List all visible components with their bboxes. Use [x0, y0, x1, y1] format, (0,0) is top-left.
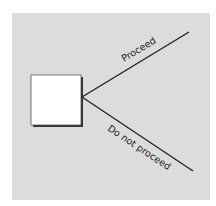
- branch-label-proceed: Proceed: [119, 35, 157, 64]
- decision-tree-diagram: Proceed Do not proceed: [0, 0, 216, 206]
- branch-line-do-not-proceed: [82, 97, 193, 171]
- branch-line-proceed: [82, 32, 189, 97]
- branch-label-do-not-proceed: Do not proceed: [106, 122, 173, 172]
- decision-node-square: [31, 75, 81, 125]
